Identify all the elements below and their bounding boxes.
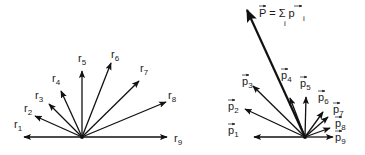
label-r1: r1 [14, 118, 23, 133]
total-momentum-vector [247, 10, 305, 137]
position-vectors-panel: r1r2r3r4r5r6r7r8r9 [14, 48, 183, 147]
label-p8: p8 [335, 117, 346, 132]
vector-p5 [305, 97, 306, 137]
vector-p3 [253, 86, 305, 137]
vector-r4 [61, 91, 82, 137]
label-p9: p9 [335, 131, 346, 146]
origin-point [80, 135, 84, 139]
label-r5: r5 [78, 52, 87, 67]
diagram-canvas: r1r2r3r4r5r6r7r8r9 p1p2p3p4p5p6p7p8p9P =… [0, 0, 365, 155]
vector-r8 [82, 102, 166, 137]
vector-r7 [82, 81, 139, 137]
vector-r6 [82, 63, 111, 137]
vector-r2 [35, 116, 82, 137]
label-p4: p4 [281, 69, 292, 84]
label-p5: p5 [300, 77, 311, 92]
vector-r3 [49, 104, 82, 137]
sum-term-index: i [303, 14, 305, 23]
sum-index: i [284, 19, 286, 28]
sum-equation-label: P = Σ p [259, 7, 295, 19]
label-p6: p6 [318, 91, 329, 106]
label-r7: r7 [140, 62, 149, 77]
label-r9: r9 [174, 132, 183, 147]
label-r4: r4 [52, 72, 61, 87]
label-r2: r2 [24, 102, 33, 117]
label-p7: p7 [333, 103, 344, 118]
momentum-vectors-panel: p1p2p3p4p5p6p7p8p9P = Σ pii [228, 6, 346, 146]
label-p2: p2 [228, 100, 239, 115]
label-r8: r8 [168, 89, 177, 104]
label-p1: p1 [228, 124, 239, 139]
label-r3: r3 [35, 89, 44, 104]
label-r6: r6 [111, 48, 120, 63]
vector-diagram: r1r2r3r4r5r6r7r8r9 p1p2p3p4p5p6p7p8p9P =… [0, 0, 365, 155]
origin-point [303, 135, 307, 139]
label-p3: p3 [242, 75, 253, 90]
